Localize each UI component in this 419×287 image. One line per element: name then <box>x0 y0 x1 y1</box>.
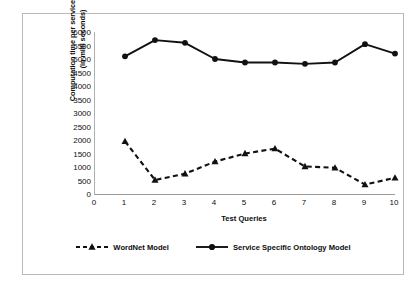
data-point-marker <box>122 138 129 144</box>
data-point-marker <box>392 174 399 180</box>
legend-item[interactable]: Service Specific Ontology Model <box>195 242 351 252</box>
data-point-marker <box>182 40 188 46</box>
x-axis-tick-label: 5 <box>232 198 256 207</box>
legend-label: WordNet Model <box>113 243 169 252</box>
data-point-marker <box>122 53 128 59</box>
x-axis-tick-labels: 012345678910 <box>94 198 394 212</box>
data-point-marker <box>302 61 308 67</box>
x-axis-tick-label: 4 <box>202 198 226 207</box>
series-wordnet-model <box>122 138 399 188</box>
x-axis-tick-label: 3 <box>172 198 196 207</box>
legend-label: Service Specific Ontology Model <box>233 243 351 252</box>
x-axis-tick-label: 2 <box>142 198 166 207</box>
y-axis-tick-label: 6000 <box>59 28 91 37</box>
y-axis-tick-label: 5500 <box>59 41 91 50</box>
y-axis-tick-label: 5000 <box>59 55 91 64</box>
x-axis-tick-label: 7 <box>292 198 316 207</box>
data-point-marker <box>392 51 398 57</box>
x-axis-tick-label: 6 <box>262 198 286 207</box>
legend-item[interactable]: WordNet Model <box>75 242 169 252</box>
y-axis-tick-labels: 0500100015002000250030003500400045005000… <box>59 27 91 189</box>
y-axis-tick-label: 1000 <box>59 163 91 172</box>
data-point-marker <box>212 56 218 62</box>
y-axis-tick-label: 4000 <box>59 82 91 91</box>
data-point-marker <box>272 60 278 66</box>
data-point-marker <box>152 37 158 43</box>
data-point-marker <box>212 158 219 164</box>
y-axis-tick-label: 500 <box>59 176 91 185</box>
series-line <box>125 141 395 184</box>
x-axis-tick-label: 10 <box>382 198 406 207</box>
chart-legend: WordNet ModelService Specific Ontology M… <box>23 242 403 252</box>
series-service-specific-ontology-model <box>122 37 398 67</box>
legend-swatch-triangle-dashed <box>75 242 109 252</box>
plot-area <box>94 32 395 195</box>
x-axis-tick-label: 9 <box>352 198 376 207</box>
x-axis-tick-label: 0 <box>82 198 106 207</box>
x-axis-tick-label: 8 <box>322 198 346 207</box>
y-axis-tick-label: 3000 <box>59 109 91 118</box>
y-axis-tick-label: 3500 <box>59 95 91 104</box>
y-axis-tick-label: 2500 <box>59 122 91 131</box>
x-axis-tick-label: 1 <box>112 198 136 207</box>
data-point-marker <box>362 41 368 47</box>
y-axis-tick-label: 4500 <box>59 68 91 77</box>
x-axis-title: Test Queries <box>94 214 394 223</box>
chart-plot-svg <box>95 32 395 194</box>
chart-figure: Computation time per service match (in m… <box>22 13 404 275</box>
data-point-marker <box>242 60 248 66</box>
series-line <box>125 40 395 64</box>
y-axis-tick-label: 2000 <box>59 136 91 145</box>
data-point-marker <box>332 60 338 66</box>
y-axis-tick-label: 1500 <box>59 149 91 158</box>
legend-swatch-circle-solid <box>195 242 229 252</box>
